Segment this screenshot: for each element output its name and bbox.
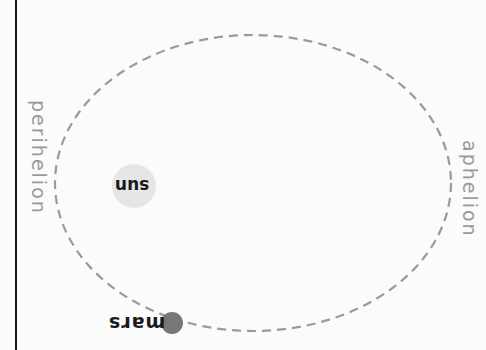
orbit-diagram: perihelion aphelion sun mars bbox=[0, 0, 486, 350]
orbit-graphic bbox=[0, 0, 486, 350]
sun-label: sun bbox=[115, 176, 149, 196]
perihelion-label: perihelion bbox=[28, 100, 50, 215]
aphelion-label: aphelion bbox=[459, 140, 481, 238]
mars-label: mars bbox=[108, 313, 165, 335]
